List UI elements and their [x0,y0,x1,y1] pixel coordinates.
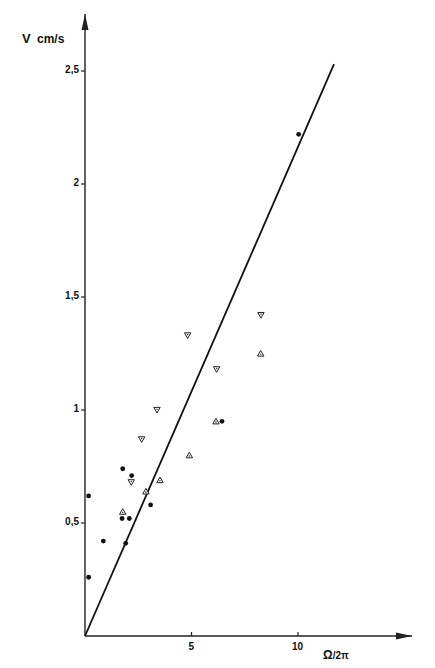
triangle-up-marker [213,418,219,424]
triangle-down-marker [184,333,190,339]
triangle-down-marker [258,312,264,318]
y-tick-label: 1 [73,403,79,414]
filled-circle-marker [120,466,125,471]
filled-circle-marker [220,419,225,424]
scatter-chart [0,0,435,668]
filled-circle-marker [101,539,106,544]
triangle-up-marker [258,351,264,357]
y-axis-label-v: V [22,31,31,46]
x-tick-label: 5 [189,641,195,652]
triangle-down-marker [138,437,144,443]
x-axis-label-2pi: /2π [333,650,349,661]
filled-circle-marker [120,516,125,521]
filled-circle-marker [296,132,301,137]
filled-circle-marker [86,493,91,498]
y-tick-label: 0,5 [65,516,79,527]
fit-line-path [85,64,334,636]
triangle-up-marker [120,509,126,515]
y-tick-label: 2 [73,177,79,188]
triangle-down-marker [154,407,160,413]
triangle-down-marker [213,367,219,373]
axes [81,14,412,640]
filled-circle-marker [86,575,91,580]
y-axis-label-unit: cm/s [37,32,64,46]
x-tick-label: 10 [292,641,303,652]
triangle-up-marker [157,477,163,483]
x-axis-arrow-icon [396,633,412,640]
fit-line [85,64,334,636]
filled-circle-marker [148,503,153,508]
triangle-down-marker [128,480,134,486]
x-axis-label-omega: Ω [323,648,333,662]
triangle-up-marker [186,452,192,458]
x-axis-label: Ω/2π [323,648,349,662]
y-axis-label: V cm/s [22,31,64,46]
filled-circle-marker [123,541,128,546]
data-points [86,132,301,580]
y-axis-arrow-icon [82,14,89,30]
filled-circle-marker [127,516,132,521]
filled-circle-marker [129,473,134,478]
y-tick-label: 1,5 [65,290,79,301]
y-tick-label: 2,5 [65,64,79,75]
